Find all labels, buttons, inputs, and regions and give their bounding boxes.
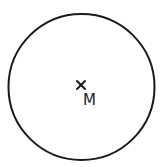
center-cross-icon <box>77 81 85 89</box>
circle <box>9 14 155 160</box>
circle-diagram: M <box>0 0 167 167</box>
center-label: M <box>83 91 96 109</box>
